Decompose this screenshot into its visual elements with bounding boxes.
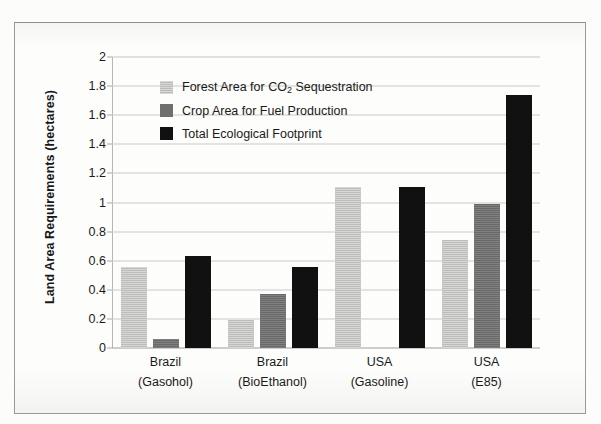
x-tick-label-line1: USA (367, 355, 393, 369)
x-tick-label-line1: Brazil (257, 355, 288, 369)
y-axis-title: Land Area Requirements (hectares) (43, 72, 57, 322)
legend-item: Forest Area for CO2 Sequestration (160, 76, 460, 99)
bar (153, 339, 179, 348)
y-tick-label: 1.2 (89, 166, 106, 180)
chart-legend: Forest Area for CO2 SequestrationCrop Ar… (160, 76, 460, 145)
legend-item: Crop Area for Fuel Production (160, 99, 460, 122)
bar (335, 187, 361, 349)
bar (292, 267, 318, 348)
legend-swatch-icon (160, 127, 173, 140)
bar (506, 95, 532, 348)
y-tick-label: 1 (99, 196, 106, 210)
y-tick-label: 2 (99, 50, 106, 64)
legend-swatch-icon (160, 81, 173, 94)
y-tick-label: 1.4 (89, 137, 106, 151)
y-tick-label: 0.6 (89, 254, 106, 268)
y-tick-label: 0.2 (89, 312, 106, 326)
y-axis-tick-labels: 21.81.61.41.210.80.60.40.20 (78, 50, 106, 348)
legend-label: Crop Area for Fuel Production (182, 104, 347, 118)
x-tick-label: Brazil(BioEthanol) (219, 352, 326, 392)
bar (399, 187, 425, 349)
bar (228, 320, 254, 348)
y-tick-label: 1.8 (89, 79, 106, 93)
legend-swatch-icon (160, 104, 173, 117)
legend-item: Total Ecological Footprint (160, 122, 460, 145)
x-tick-label-line1: USA (474, 355, 500, 369)
chart-container: Land Area Requirements (hectares) 21.81.… (0, 0, 601, 424)
bar (474, 204, 500, 348)
y-tick-label: 1.6 (89, 108, 106, 122)
legend-label: Total Ecological Footprint (182, 127, 322, 141)
x-tick-label: USA(Gasoline) (326, 352, 433, 392)
y-tick-label: 0.4 (89, 283, 106, 297)
bar (260, 294, 286, 348)
x-axis-tick-labels: Brazil(Gasohol)Brazil(BioEthanol)USA(Gas… (112, 352, 540, 408)
x-tick-label: USA(E85) (433, 352, 540, 392)
y-tick-label: 0 (99, 341, 106, 355)
x-tick-label: Brazil(Gasohol) (112, 352, 219, 392)
x-tick-label-line1: Brazil (150, 355, 181, 369)
x-tick-label-line2: (Gasohol) (112, 372, 219, 392)
y-tick-label: 0.8 (89, 225, 106, 239)
bar (121, 267, 147, 348)
x-tick-label-line2: (BioEthanol) (219, 372, 326, 392)
x-tick-label-line2: (Gasoline) (326, 372, 433, 392)
figure-canvas: Land Area Requirements (hectares) 21.81.… (0, 0, 601, 424)
legend-label: Forest Area for CO2 Sequestration (182, 80, 373, 95)
bar (442, 240, 468, 348)
bar (185, 256, 211, 348)
x-tick-label-line2: (E85) (433, 372, 540, 392)
